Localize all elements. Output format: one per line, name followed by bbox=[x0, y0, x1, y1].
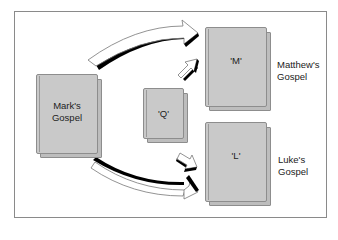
book-l: 'L' bbox=[205, 122, 271, 206]
book-spine bbox=[208, 29, 209, 105]
book-cover bbox=[205, 27, 267, 107]
book-cover bbox=[205, 122, 267, 202]
book-spine bbox=[208, 124, 209, 200]
label-matthews-gospel-line2: Gospel bbox=[277, 71, 307, 83]
book-label-q: 'Q' bbox=[143, 108, 184, 120]
arrow-mark-to-matthew bbox=[88, 20, 199, 70]
book-q: 'Q' bbox=[143, 88, 188, 143]
book-label-m: 'M' bbox=[205, 55, 267, 67]
arrow-q-to-luke bbox=[176, 153, 197, 172]
arrow-q-to-matthew bbox=[178, 59, 199, 81]
label-lukes-gospel-line1: Luke's bbox=[278, 154, 305, 166]
book-label-mark-line2: Gospel bbox=[36, 112, 98, 124]
book-label-l: 'L' bbox=[205, 150, 267, 162]
book-label-mark-line1: Mark's bbox=[36, 100, 98, 112]
book-marks-gospel: Mark's Gospel bbox=[36, 74, 102, 158]
label-matthews-gospel-line1: Matthew's bbox=[277, 59, 319, 71]
label-lukes-gospel-line2: Gospel bbox=[278, 166, 308, 178]
book-m: 'M' bbox=[205, 27, 271, 111]
